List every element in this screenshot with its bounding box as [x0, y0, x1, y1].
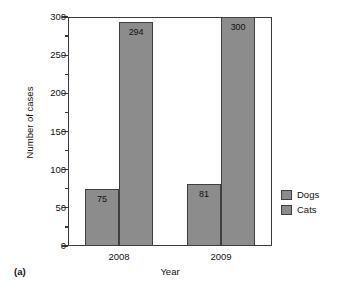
legend-swatch-cats [281, 205, 292, 215]
bar-value-label: 300 [222, 22, 254, 32]
legend-swatch-dogs [281, 190, 292, 200]
figure-caption: (a) [14, 266, 26, 277]
x-axis-tick-label: 2009 [191, 251, 251, 262]
bar-value-label: 294 [120, 27, 152, 37]
legend-item-dogs: Dogs [281, 187, 319, 202]
y-axis-tick-label: 50 [55, 203, 66, 213]
y-axis-tick-label: 300 [50, 12, 66, 22]
y-axis-tick-label: 0 [61, 241, 66, 251]
figure-panel: 050100150200250300 7529481300 Number of … [0, 0, 345, 290]
x-axis-tick-label: 2008 [89, 251, 149, 262]
bar-dogs-2008: 75 [85, 189, 119, 246]
bar-cats-2009: 300 [221, 17, 255, 246]
bars-layer: 7529481300 [68, 17, 272, 246]
x-axis-title: Year [68, 266, 272, 277]
legend: DogsCats [281, 187, 319, 217]
y-axis-title: Number of cases [24, 68, 35, 178]
y-axis-tick-label: 250 [50, 50, 66, 60]
y-axis-tick-label: 100 [50, 165, 66, 175]
y-axis-tick-label: 200 [50, 88, 66, 98]
legend-label: Dogs [297, 190, 319, 200]
bar-dogs-2009: 81 [187, 184, 221, 246]
bar-cats-2008: 294 [119, 22, 153, 246]
y-axis-tick-label: 150 [50, 127, 66, 137]
bar-value-label: 81 [188, 189, 220, 199]
legend-label: Cats [297, 205, 317, 215]
legend-item-cats: Cats [281, 202, 319, 217]
bar-value-label: 75 [86, 194, 118, 204]
